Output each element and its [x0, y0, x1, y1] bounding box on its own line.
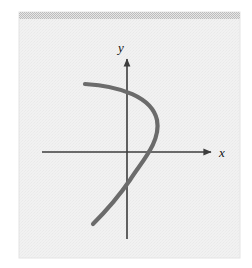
coordinate-graph-figure: x y — [0, 0, 252, 268]
figure-container: x y — [0, 0, 252, 268]
panel-top-dot-band — [19, 12, 240, 19]
x-axis-label: x — [218, 145, 225, 160]
figure-panel-background — [19, 12, 240, 258]
y-axis-label: y — [116, 40, 124, 55]
